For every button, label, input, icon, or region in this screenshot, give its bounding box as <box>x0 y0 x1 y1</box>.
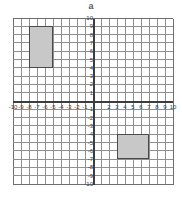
coordinate-grid-plot: -10-9-8-7-6-5-4-3-2-12345678910109876543… <box>13 19 173 185</box>
y-tick-label: -6 <box>80 148 93 154</box>
y-tick-label: -3 <box>80 123 93 129</box>
y-tick-label: -9 <box>80 173 93 179</box>
y-tick-label: -10 <box>80 181 93 187</box>
y-tick-label: 3 <box>80 73 93 79</box>
y-tick-label: -7 <box>80 156 93 162</box>
y-tick-label: 8 <box>80 32 93 38</box>
y-tick-label: -5 <box>80 140 93 146</box>
y-tick-label: -8 <box>80 164 93 170</box>
y-tick-label: -1 <box>80 106 93 112</box>
y-tick-label: -4 <box>80 131 93 137</box>
y-tick-label: 9 <box>80 23 93 29</box>
y-tick-label: 2 <box>80 81 93 87</box>
lower-right-rectangle <box>117 134 149 159</box>
y-tick-label: 6 <box>80 48 93 54</box>
y-tick-label: -2 <box>80 115 93 121</box>
x-tick-label: 10 <box>167 104 179 110</box>
y-tick-label: 7 <box>80 40 93 46</box>
y-tick-label: 1 <box>80 90 93 96</box>
y-tick-label: 10 <box>80 15 93 21</box>
y-axis-line <box>93 19 95 185</box>
y-tick-label: 5 <box>80 57 93 63</box>
figure-label: a <box>0 0 182 12</box>
y-tick-label: 4 <box>80 65 93 71</box>
upper-left-rectangle <box>29 26 53 68</box>
